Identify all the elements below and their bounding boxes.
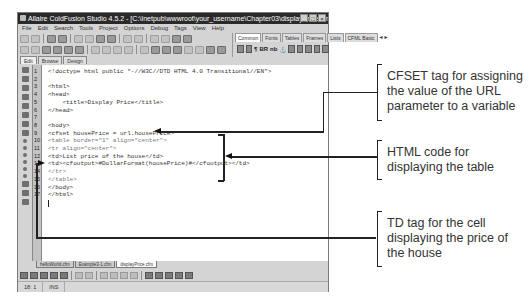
copy-icon[interactable]	[31, 46, 40, 54]
align-left-icon[interactable]	[305, 45, 312, 53]
equals-icon[interactable]	[22, 190, 29, 196]
redo-icon[interactable]	[102, 46, 111, 54]
new-doc-icon[interactable]	[20, 272, 28, 279]
dot-icon[interactable]	[23, 167, 27, 171]
bullet-icon[interactable]	[23, 160, 27, 164]
omega-icon[interactable]	[161, 35, 170, 43]
menu-help[interactable]: Help	[212, 24, 224, 33]
line-break-icon[interactable]: BR	[259, 46, 268, 52]
code-editor[interactable]: <!doctype html public "-//W3C//DTD HTML …	[42, 65, 328, 261]
indent-icon[interactable]	[23, 139, 27, 143]
menu-file[interactable]: File	[22, 24, 32, 33]
quick-start-icon[interactable]	[237, 45, 244, 53]
menu-tools[interactable]: Tools	[79, 24, 93, 33]
tab-browse[interactable]: Browse	[38, 56, 63, 64]
close-button[interactable]: ×	[318, 14, 326, 22]
nbsp-icon[interactable]: nb	[270, 46, 277, 52]
tools-icon[interactable]	[183, 35, 192, 43]
menu-search[interactable]: Search	[54, 24, 73, 33]
tab-design[interactable]: Design	[63, 56, 87, 64]
tab-edit[interactable]: Edit	[20, 56, 37, 64]
word-wrap-icon[interactable]	[22, 94, 29, 100]
undo-icon[interactable]	[91, 46, 100, 54]
tag-tree-icon[interactable]	[40, 272, 48, 279]
save-all-icon[interactable]	[58, 35, 67, 43]
anchor-icon[interactable]: ⚓	[279, 46, 286, 53]
open-file-icon[interactable]	[31, 35, 40, 43]
special-chars-icon[interactable]	[150, 35, 159, 43]
tab-tables[interactable]: Tables	[282, 33, 302, 42]
menu-debug[interactable]: Debug	[150, 24, 168, 33]
comment-block-icon[interactable]	[23, 153, 27, 157]
menu-view[interactable]: View	[193, 24, 206, 33]
debug-start-icon[interactable]	[100, 272, 108, 279]
align-center-icon[interactable]	[314, 45, 321, 53]
format-icon[interactable]	[22, 130, 29, 136]
validate-icon[interactable]	[151, 46, 160, 54]
maximize-button[interactable]: □	[309, 14, 317, 22]
output-icon[interactable]	[185, 272, 193, 279]
project-icon[interactable]	[123, 35, 132, 43]
save-icon[interactable]	[47, 35, 56, 43]
browse-icon[interactable]	[162, 46, 171, 54]
menu-tags[interactable]: Tags	[174, 24, 187, 33]
zoom-icon[interactable]	[140, 46, 149, 54]
tab-common[interactable]: Common	[235, 33, 261, 42]
tab-lists[interactable]: Lists	[327, 33, 343, 42]
tree-icon[interactable]	[30, 272, 38, 279]
highlight-icon[interactable]	[22, 199, 29, 205]
snippet-insert-icon[interactable]	[22, 85, 29, 91]
results-icon[interactable]	[60, 272, 68, 279]
image-map-icon[interactable]	[217, 46, 226, 54]
resource-icon[interactable]	[50, 272, 58, 279]
menu-project[interactable]: Project	[99, 24, 118, 33]
minimize-button[interactable]: _	[300, 14, 308, 22]
paste-icon[interactable]	[42, 46, 51, 54]
replace-icon[interactable]	[85, 35, 94, 43]
image-icon[interactable]	[288, 45, 295, 53]
tab-fonts[interactable]: Fonts	[262, 33, 281, 42]
tab-cfml-basic[interactable]: CFML Basic	[345, 33, 378, 42]
file-tab[interactable]: helloWorld.cfm	[36, 261, 74, 268]
find-in-files-icon[interactable]	[96, 35, 105, 43]
debug-step-icon[interactable]	[110, 272, 118, 279]
hr-icon[interactable]	[297, 45, 304, 53]
clipboard-icon[interactable]	[64, 46, 73, 54]
pen-icon[interactable]	[22, 181, 29, 187]
menu-options[interactable]: Options	[124, 24, 145, 33]
refresh-icon[interactable]	[113, 46, 122, 54]
paragraph-icon[interactable]: ¶	[254, 46, 257, 52]
show-gutter-icon[interactable]	[22, 103, 29, 109]
toggle-panel-icon[interactable]	[172, 35, 181, 43]
variables-icon[interactable]	[165, 272, 173, 279]
dot-icon[interactable]	[23, 174, 27, 178]
tab-frames[interactable]: Frames	[303, 33, 326, 42]
move-icon[interactable]	[22, 76, 29, 82]
page-icon[interactable]	[246, 45, 253, 53]
tag-inspector-icon[interactable]	[206, 46, 215, 54]
debug-stop-icon[interactable]	[130, 272, 138, 279]
debug-step-over-icon[interactable]	[120, 272, 128, 279]
comment-icon[interactable]	[195, 46, 204, 54]
breakpoint-icon[interactable]	[175, 272, 183, 279]
file-tab-active[interactable]: displayPrice.cfm	[116, 261, 157, 268]
tab-scroll-arrows[interactable]: ◄►	[379, 33, 389, 42]
tag-completion-icon[interactable]	[22, 67, 29, 73]
next-bookmark-icon[interactable]	[22, 121, 29, 127]
bullet-icon[interactable]	[75, 272, 83, 279]
replace-in-files-icon[interactable]	[107, 35, 116, 43]
file-tab[interactable]: Example3-1.cfm	[75, 261, 116, 268]
table-icon[interactable]	[322, 45, 329, 53]
new-file-icon[interactable]	[20, 35, 29, 43]
watch-icon[interactable]	[155, 272, 163, 279]
snippet-icon[interactable]	[75, 46, 84, 54]
paste-special-icon[interactable]	[53, 46, 62, 54]
preview-icon[interactable]	[173, 46, 182, 54]
bookmark-icon[interactable]	[22, 112, 29, 118]
menu-edit[interactable]: Edit	[38, 24, 48, 33]
find-icon[interactable]	[74, 35, 83, 43]
unindent-icon[interactable]	[23, 146, 27, 150]
indent-icon[interactable]	[124, 46, 133, 54]
resource-tab-icon[interactable]	[134, 35, 143, 43]
window-icon[interactable]	[145, 272, 153, 279]
